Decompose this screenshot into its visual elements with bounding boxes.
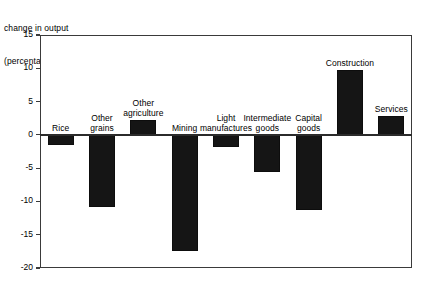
bar-chart: change in output (percentage) 151050-5-1… [0,0,422,288]
bar-category-label-line: grains [54,123,150,133]
bar-category-label: Services [343,104,422,114]
bar [89,135,115,207]
bar-category-label-line: goods [261,123,357,133]
bar [296,135,322,210]
bar [213,135,239,147]
y-axis-tick-mark [36,201,40,202]
bar-category-label-line: agriculture [95,108,191,118]
y-axis-tick-label: 5 [28,96,33,106]
y-axis-tick-label: -20 [21,262,33,272]
bar-category-label-line: Construction [302,58,398,68]
y-axis-tick-label: -15 [21,229,33,239]
y-axis-tick-mark [36,68,40,69]
axis-title-line-1: change in output [4,23,68,34]
y-axis-tick-mark [36,168,40,169]
zero-baseline [40,134,412,135]
bar-category-label-line: Other [95,98,191,108]
bar [172,135,198,252]
bar-category-label: Otheragriculture [95,98,191,118]
y-axis-tick-label: 15 [24,29,33,39]
y-axis-tick-label: 10 [24,62,33,72]
y-axis-tick-mark [36,101,40,102]
bar-category-label: Construction [302,58,398,68]
y-axis-tick-label: -10 [21,195,33,205]
bar-category-label-line: Services [343,104,422,114]
bar [378,116,404,135]
y-axis-tick-mark [36,34,40,35]
bar-category-label: Capitalgoods [261,113,357,133]
bar-category-label-line: Capital [261,113,357,123]
y-axis-tick-label: -5 [25,162,33,172]
y-axis-tick-mark [36,234,40,235]
y-axis-tick-mark [36,267,40,268]
bar [254,135,280,172]
bar [48,135,74,145]
